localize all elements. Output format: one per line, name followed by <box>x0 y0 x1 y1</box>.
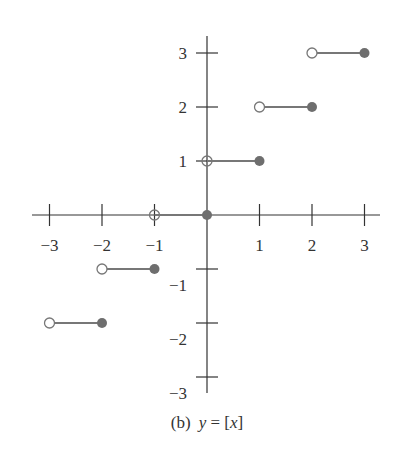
closed-endpoint <box>97 318 107 328</box>
open-endpoint <box>97 264 107 274</box>
chart-caption: (b)y = [x] <box>171 413 243 432</box>
caption-close: ] <box>238 413 244 432</box>
x-tick-label: −2 <box>93 236 111 255</box>
y-tick-label: −2 <box>169 330 187 349</box>
x-tick-label: 3 <box>360 236 369 255</box>
chart-svg: −3−2−1123321−1−2−3 (b)y = [x] <box>0 0 405 459</box>
caption-eq: = [ <box>206 413 230 432</box>
closed-endpoint <box>307 102 317 112</box>
y-tick-label: 2 <box>179 98 188 117</box>
y-tick-label: −1 <box>169 276 187 295</box>
y-tick-label: −3 <box>169 384 187 403</box>
y-tick-label: 1 <box>179 152 188 171</box>
caption-label: (b) <box>171 413 191 432</box>
ticks: −3−2−1123321−1−2−3 <box>40 44 368 403</box>
x-tick-label: 2 <box>308 236 317 255</box>
closed-endpoint <box>360 48 370 58</box>
y-tick-label: 3 <box>179 44 188 63</box>
x-tick-label: −1 <box>145 236 163 255</box>
closed-endpoint <box>150 264 160 274</box>
caption-y: y <box>197 413 207 432</box>
closed-endpoint <box>255 156 265 166</box>
open-endpoint <box>255 102 265 112</box>
open-endpoint <box>307 48 317 58</box>
open-endpoint <box>45 318 55 328</box>
x-tick-label: −3 <box>40 236 58 255</box>
x-tick-label: 1 <box>255 236 264 255</box>
closed-endpoint <box>202 210 212 220</box>
